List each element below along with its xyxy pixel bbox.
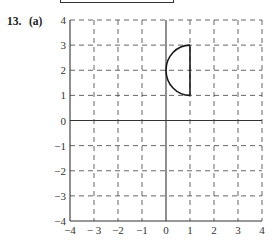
- y-tick-label: −4: [54, 215, 66, 227]
- x-tick-label: 4: [259, 224, 265, 236]
- axes: [70, 20, 262, 221]
- y-tick-label: −1: [54, 140, 66, 152]
- y-tick-label: −2: [54, 165, 66, 177]
- y-tick-label: 1: [61, 89, 67, 101]
- x-tick-label: 1: [187, 224, 193, 236]
- y-tick-label: 3: [61, 39, 67, 51]
- x-tick-label: −1: [136, 224, 148, 236]
- chart: −4− 3−2−101234−4−3−2−101234: [0, 0, 276, 244]
- x-tick-label: 3: [235, 224, 241, 236]
- x-tick-label: − 3: [87, 224, 102, 236]
- y-tick-label: 4: [61, 14, 67, 26]
- y-tick-label: −3: [54, 190, 66, 202]
- tick-labels: −4− 3−2−101234−4−3−2−101234: [54, 14, 265, 236]
- y-tick-label: 0: [61, 115, 67, 127]
- x-tick-label: 0: [163, 224, 169, 236]
- x-tick-label: 2: [211, 224, 217, 236]
- y-tick-label: 2: [61, 64, 67, 76]
- x-tick-label: −2: [112, 224, 124, 236]
